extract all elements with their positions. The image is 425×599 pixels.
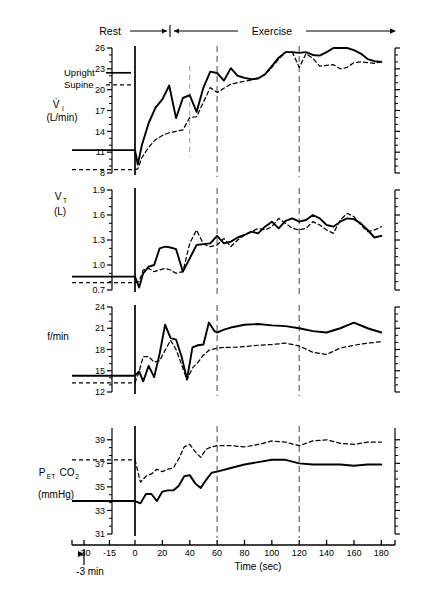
panel2-y-units: (L) <box>54 206 66 217</box>
x-axis: -30-15020406080100120140160180-3 minTime… <box>72 540 395 577</box>
panel4-y-label: P <box>39 467 46 478</box>
panel2-y-label: V <box>55 191 62 202</box>
y-tick-label: 17 <box>95 106 105 116</box>
x-axis-label: Time (sec) <box>235 561 282 572</box>
y-tick-label: 39 <box>95 435 105 445</box>
panel2-y-label-subscript: T <box>63 197 67 204</box>
x-tick-label: 60 <box>212 548 222 558</box>
panel4-y-label-subscript: ET <box>47 473 55 480</box>
figure-container: RestExercise8111417202326V̇I(L/min)0.71.… <box>0 0 425 599</box>
series-line-supine <box>135 340 381 383</box>
y-tick-label: 1.9 <box>92 185 105 195</box>
panel-3: 1215182124f/min <box>47 302 400 397</box>
y-tick-label: 1.0 <box>92 260 105 270</box>
phase-header: RestExercise <box>99 25 396 37</box>
y-tick-label: 12 <box>95 387 105 397</box>
panel1-y-label-subscript: I <box>62 105 64 112</box>
phase-label-exercise: Exercise <box>252 25 292 37</box>
ventilatory-response-figure: RestExercise8111417202326V̇I(L/min)0.71.… <box>0 0 425 599</box>
x-tick-label: 100 <box>264 548 279 558</box>
rest-start-label: -3 min <box>76 566 104 577</box>
x-tick-label: 160 <box>346 548 361 558</box>
rest-arrow-head <box>162 28 167 33</box>
panel-4: 3133353739PETCO2(mmHg) <box>38 426 400 539</box>
y-tick-label: 15 <box>95 366 105 376</box>
x-tick-label: 80 <box>239 548 249 558</box>
y-tick-label: 1.3 <box>92 235 105 245</box>
y-tick-label: 23 <box>95 64 105 74</box>
panel-1: 8111417202326V̇I(L/min) <box>46 43 400 178</box>
panel1-y-units: (L/min) <box>46 112 77 123</box>
y-tick-label: 14 <box>95 127 105 137</box>
y-tick-label: 24 <box>95 302 105 312</box>
x-tick-label: 180 <box>374 548 389 558</box>
y-tick-label: 1.6 <box>92 210 105 220</box>
series-line-supine <box>135 52 381 169</box>
panel4-y-units: (mmHg) <box>38 489 74 500</box>
y-tick-label: 31 <box>95 529 105 539</box>
x-tick-label: 140 <box>319 548 334 558</box>
exercise-arrow-head-right <box>390 28 396 34</box>
panel4-y-label-co2-subscript: 2 <box>75 473 79 480</box>
y-tick-label: 20 <box>95 85 105 95</box>
y-tick-label: 11 <box>96 147 105 157</box>
series-line-upright <box>135 215 381 288</box>
panel3-y-label: f/min <box>47 331 69 342</box>
x-tick-label: 40 <box>185 548 195 558</box>
y-tick-label: 18 <box>95 345 105 355</box>
x-tick-label: -15 <box>103 548 116 558</box>
y-tick-label: 35 <box>95 482 105 492</box>
x-tick-label: 20 <box>157 548 167 558</box>
series-line-upright <box>135 460 381 504</box>
y-tick-label: 21 <box>95 323 105 333</box>
x-tick-label: 120 <box>292 548 307 558</box>
legend-label-supine: Supine <box>64 79 94 90</box>
series-line-upright <box>135 48 381 165</box>
x-tick-label: 0 <box>132 548 137 558</box>
phase-label-rest: Rest <box>99 25 121 37</box>
y-tick-label: 0.7 <box>92 285 105 295</box>
series-line-supine <box>135 440 381 482</box>
series-line-upright <box>135 323 381 382</box>
panel1-y-label: V̇ <box>53 98 60 110</box>
y-tick-label: 26 <box>95 43 105 53</box>
legend-label-upright: Upright <box>64 67 95 78</box>
panel4-y-label-co2: CO <box>60 467 75 478</box>
panel-2: 0.71.01.31.61.9VT(L) <box>54 185 400 295</box>
y-tick-label: 33 <box>95 506 105 516</box>
